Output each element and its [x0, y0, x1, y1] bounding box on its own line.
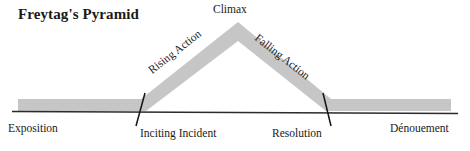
stage-label-climax: Climax [213, 4, 247, 16]
baseline-rule [12, 112, 458, 114]
freytags-pyramid-diagram: Freytag's Pyramid Climax Rising Action F… [0, 0, 470, 151]
page-title: Freytag's Pyramid [18, 6, 139, 23]
narrative-band-shape [18, 22, 451, 111]
stage-label-inciting-incident: Inciting Incident [140, 128, 216, 140]
stage-label-denouement: Dénouement [390, 123, 449, 135]
stage-label-exposition: Exposition [8, 123, 58, 135]
stage-label-resolution: Resolution [272, 128, 322, 140]
